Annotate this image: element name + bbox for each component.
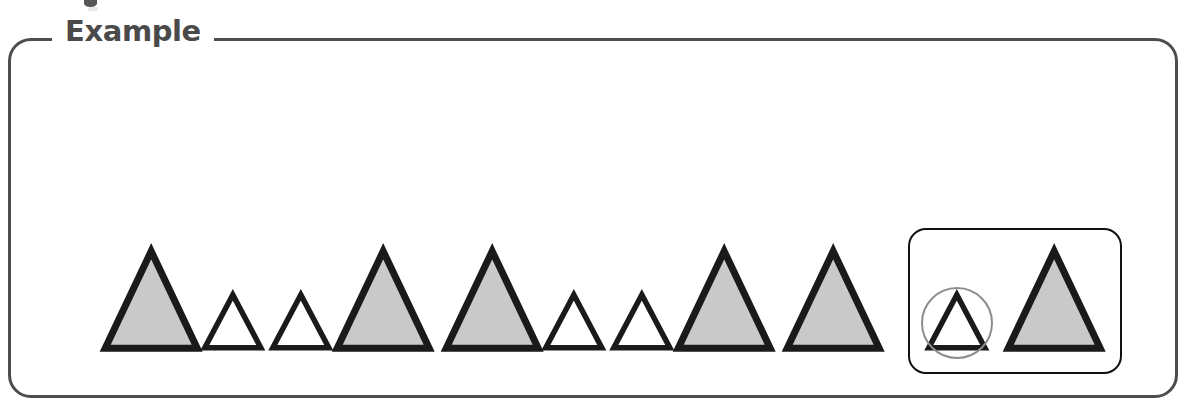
example-panel: Example — [0, 0, 1186, 418]
sequence-triangle — [94, 240, 208, 359]
selection-circle-icon — [921, 287, 993, 359]
sequence-triangle — [667, 240, 781, 359]
sequence-triangle — [196, 286, 270, 357]
sequence-triangle — [435, 240, 549, 359]
sequence-triangle — [776, 240, 890, 359]
sequence-triangle — [537, 286, 611, 357]
sequence-triangle — [326, 240, 440, 359]
